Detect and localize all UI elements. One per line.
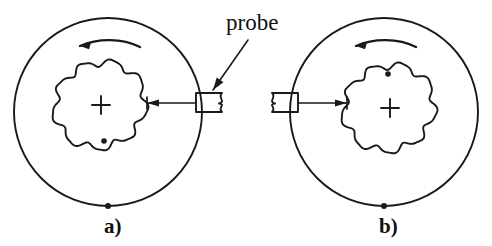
outer-circle-a [14, 18, 202, 206]
blob-marker-dot-b [385, 71, 391, 77]
outer-marker-dot-a [105, 203, 111, 209]
probe-callout-label: probe [226, 10, 278, 35]
diagram-canvas: a) b) probe [0, 0, 492, 246]
panel-label-a: a) [104, 214, 122, 238]
probe-callout-arrowhead [213, 78, 223, 90]
center-cross-b [381, 99, 399, 117]
panel-a: a) [14, 18, 222, 238]
outer-circle-b [290, 18, 478, 206]
figure-container: a) b) probe [0, 0, 492, 246]
panel-b: b) [272, 18, 478, 238]
panel-label-b: b) [379, 214, 398, 238]
blob-marker-dot-a [101, 138, 107, 144]
probe-arrowhead-b [335, 99, 347, 106]
probe-body-b [272, 93, 298, 112]
outer-marker-dot-b [381, 203, 387, 209]
center-cross-a [92, 96, 110, 114]
probe-callout: probe [213, 10, 278, 90]
